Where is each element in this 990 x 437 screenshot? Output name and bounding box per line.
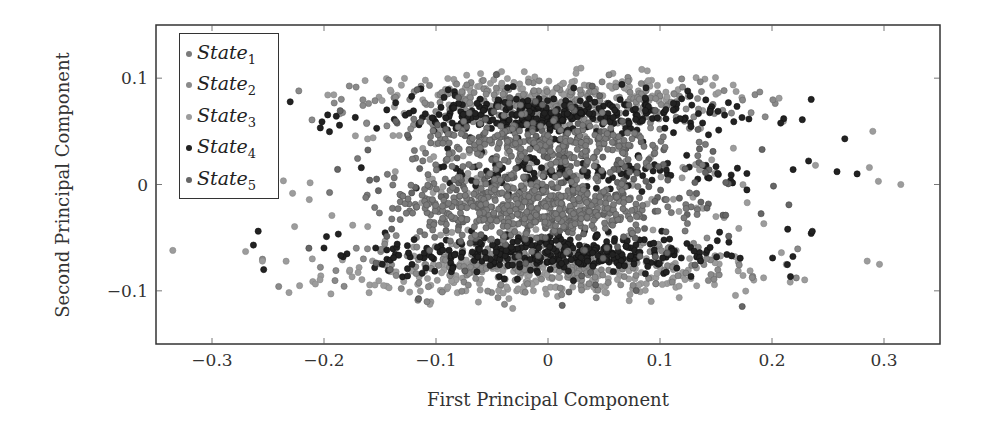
data-point	[633, 116, 639, 122]
data-point	[599, 110, 605, 116]
data-point	[513, 96, 519, 102]
data-point	[670, 100, 676, 106]
data-point	[713, 214, 719, 220]
data-point	[723, 179, 729, 185]
data-point	[610, 132, 616, 138]
legend-label: State2	[197, 72, 256, 98]
data-point	[558, 200, 564, 206]
data-point	[612, 107, 618, 113]
data-point	[562, 158, 568, 164]
data-point	[577, 87, 583, 93]
data-point	[419, 270, 425, 276]
data-point	[417, 288, 423, 294]
data-point	[602, 289, 608, 295]
data-point	[574, 146, 580, 152]
data-point	[606, 177, 612, 183]
data-point	[648, 298, 654, 304]
data-point	[594, 149, 600, 155]
data-point	[706, 175, 712, 181]
data-point	[594, 233, 600, 239]
data-point	[504, 223, 510, 229]
data-point	[619, 181, 625, 187]
data-point	[684, 152, 690, 158]
data-point	[758, 211, 764, 217]
data-point	[642, 95, 648, 101]
data-point	[555, 185, 561, 191]
data-point	[544, 88, 550, 94]
data-point	[376, 278, 382, 284]
data-point	[436, 112, 442, 118]
data-point	[739, 303, 745, 309]
data-point	[510, 305, 516, 311]
data-point	[736, 225, 742, 231]
data-point	[319, 119, 325, 125]
data-point	[525, 98, 531, 104]
data-point	[429, 197, 435, 203]
data-point	[623, 110, 629, 116]
data-points	[170, 65, 904, 312]
data-point	[547, 193, 553, 199]
data-point	[365, 136, 371, 142]
data-point	[635, 183, 641, 189]
data-point	[389, 226, 395, 232]
data-point	[532, 98, 538, 104]
data-point	[426, 82, 432, 88]
data-point	[619, 118, 625, 124]
data-point	[514, 276, 520, 282]
data-point	[579, 273, 585, 279]
data-point	[360, 97, 366, 103]
data-point	[566, 289, 572, 295]
data-point	[652, 254, 658, 260]
y-tick-label: 0	[137, 175, 148, 195]
data-point	[688, 124, 694, 130]
data-point	[593, 175, 599, 181]
data-point	[518, 153, 524, 159]
data-point	[619, 81, 625, 87]
data-point	[715, 90, 721, 96]
data-point	[347, 267, 353, 273]
data-point	[737, 255, 743, 261]
data-point	[496, 162, 502, 168]
data-point	[736, 262, 742, 268]
data-point	[778, 250, 784, 256]
data-point	[489, 242, 495, 248]
data-point	[449, 120, 455, 126]
data-point	[637, 253, 643, 259]
data-point	[578, 110, 584, 116]
data-point	[317, 125, 323, 131]
x-tick-label: −0.3	[191, 350, 232, 370]
data-point	[364, 246, 370, 252]
data-point	[483, 181, 489, 187]
data-point	[627, 89, 633, 95]
data-point	[522, 236, 528, 242]
y-tick-label: 0.1	[121, 68, 148, 88]
data-point	[473, 275, 479, 281]
data-point	[548, 167, 554, 173]
data-point	[425, 172, 431, 178]
data-point	[506, 296, 512, 302]
data-point	[424, 299, 430, 305]
data-point	[493, 156, 499, 162]
data-point	[454, 155, 460, 161]
data-point	[633, 288, 639, 294]
data-point	[487, 171, 493, 177]
data-point	[732, 292, 738, 298]
data-point	[323, 234, 329, 240]
data-point	[530, 120, 536, 126]
data-point	[695, 111, 701, 117]
data-point	[757, 89, 763, 95]
data-point	[464, 82, 470, 88]
data-point	[689, 102, 695, 108]
data-point	[510, 83, 516, 89]
data-point	[683, 106, 689, 112]
data-point	[495, 104, 501, 110]
data-point	[604, 245, 610, 251]
data-point	[558, 260, 564, 266]
data-point	[477, 287, 483, 293]
data-point	[705, 132, 711, 138]
data-point	[432, 234, 438, 240]
data-point	[513, 135, 519, 141]
data-point	[721, 88, 727, 94]
data-point	[491, 187, 497, 193]
data-point	[620, 206, 626, 212]
